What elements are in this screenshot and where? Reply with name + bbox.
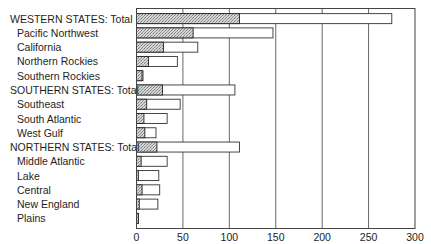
category-label: Central xyxy=(17,184,51,196)
category-label: Pacific Northwest xyxy=(17,27,98,39)
bar-hatched xyxy=(137,42,164,52)
bar-hatched xyxy=(137,99,147,109)
category-label: Southern Rockies xyxy=(17,70,100,82)
x-tick-label: 0 xyxy=(134,231,140,243)
x-tick-label: 250 xyxy=(360,231,378,243)
category-label: WESTERN STATES: Total xyxy=(10,13,133,25)
category-labels: WESTERN STATES: TotalPacific NorthwestCa… xyxy=(10,13,139,225)
bar-hatched xyxy=(137,14,240,24)
category-label: New England xyxy=(17,198,80,210)
category-label: NORTHERN STATES: Total xyxy=(10,141,139,153)
x-tick-label: 150 xyxy=(267,231,285,243)
bar-hatched xyxy=(137,28,194,38)
category-label: Middle Atlantic xyxy=(17,155,85,167)
bars xyxy=(137,14,392,224)
bar-hatched xyxy=(137,71,143,81)
category-label: Lake xyxy=(17,170,40,182)
category-label: SOUTHERN STATES: Total xyxy=(10,84,139,96)
bar-hatched xyxy=(137,85,163,95)
gridlines xyxy=(183,9,369,229)
x-tick-label: 200 xyxy=(313,231,331,243)
bar-hatched xyxy=(137,114,144,124)
category-label: Plains xyxy=(17,212,46,224)
bar-total xyxy=(137,171,159,181)
bar-hatched xyxy=(137,142,157,152)
category-label: South Atlantic xyxy=(17,113,81,125)
bar-hatched xyxy=(137,56,149,66)
bar-hatched xyxy=(137,185,143,195)
x-axis-ticks: 050100150200250300 xyxy=(134,231,424,243)
category-label: California xyxy=(17,41,62,53)
bar-chart: WESTERN STATES: TotalPacific NorthwestCa… xyxy=(0,0,431,244)
bar-hatched xyxy=(137,128,145,138)
category-label: Southeast xyxy=(17,98,64,110)
category-label: West Gulf xyxy=(17,127,63,139)
x-tick-label: 100 xyxy=(221,231,239,243)
x-tick-label: 50 xyxy=(177,231,189,243)
bar-hatched xyxy=(137,156,142,166)
x-tick-label: 300 xyxy=(406,231,424,243)
category-label: Northern Rockies xyxy=(17,55,98,67)
